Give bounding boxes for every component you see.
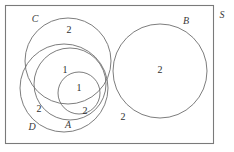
region-count-a-inner: 1: [77, 82, 82, 93]
region-count-d-only: 2: [37, 103, 42, 114]
set-circle-middle: [34, 48, 106, 120]
region-count-middle-only: 1: [63, 64, 68, 75]
set-label-S: S: [220, 9, 225, 20]
region-count-a-d-overlap: 2: [83, 105, 88, 116]
region-count-b-only: 2: [158, 64, 163, 75]
region-count-c-only: 2: [67, 24, 72, 35]
venn-diagram-canvas: S C D A B 2 1 1 2 2 2 2: [0, 0, 234, 152]
set-label-A: A: [64, 119, 72, 130]
venn-diagram: S C D A B 2 1 1 2 2 2 2: [0, 0, 234, 152]
set-label-D: D: [27, 121, 36, 132]
set-label-B: B: [183, 15, 189, 26]
set-label-C: C: [32, 13, 39, 24]
region-count-outside: 2: [121, 111, 126, 122]
